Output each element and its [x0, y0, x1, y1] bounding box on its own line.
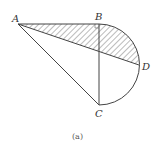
label-d: D [141, 61, 150, 72]
label-a: A [11, 13, 19, 24]
geometry-figure: A B C D (a) [0, 0, 156, 148]
label-b: B [94, 11, 102, 22]
figure-caption: (a) [72, 132, 83, 141]
label-c: C [95, 108, 103, 119]
